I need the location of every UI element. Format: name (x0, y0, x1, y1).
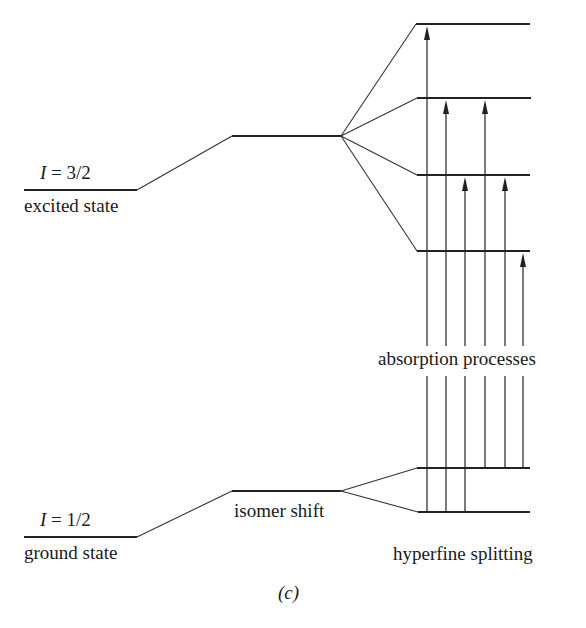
ground-split-connector-2 (341, 491, 418, 512)
arrowhead-icon (424, 26, 430, 40)
transition-arrow-5 (502, 177, 508, 468)
arrowhead-icon (462, 177, 468, 191)
ground-spin-label: I = 1/2 (40, 509, 91, 531)
absorption-processes-label: absorption processes (378, 348, 536, 370)
ground-split-connector-1 (341, 468, 417, 491)
ground-isomer-connector (137, 491, 232, 537)
excited-spin-label: I = 3/2 (40, 162, 91, 184)
arrowhead-icon (520, 253, 526, 267)
arrowhead-icon (482, 100, 488, 114)
excited-split-connector-3 (341, 136, 417, 175)
hyperfine-splitting-label: hyperfine splitting (393, 543, 533, 565)
excited-split-connector-2 (341, 98, 417, 136)
arrowhead-icon (443, 100, 449, 114)
transition-arrow-3 (462, 177, 468, 512)
excited-split-connector-1 (341, 24, 416, 136)
spin-value: = 1/2 (46, 509, 91, 530)
panel-label: (c) (278, 582, 299, 604)
energy-level-diagram (0, 0, 586, 628)
transition-arrow-4 (482, 100, 488, 468)
excited-state-label: excited state (24, 195, 118, 217)
transition-arrow-2 (443, 100, 449, 512)
arrowhead-icon (502, 177, 508, 191)
excited-split-connector-4 (341, 136, 417, 251)
spin-value: = 3/2 (46, 162, 91, 183)
isomer-shift-label: isomer shift (234, 500, 324, 522)
ground-state-label: ground state (24, 542, 117, 564)
excited-isomer-connector (137, 136, 232, 190)
